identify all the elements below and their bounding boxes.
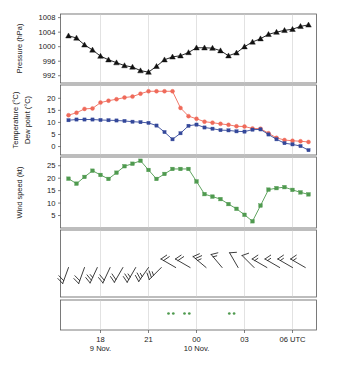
yaxis-temp: 05101520 [47, 94, 60, 151]
frame-wx [61, 300, 317, 330]
dew-point-marker-point [123, 119, 126, 122]
temperature-marker-point [67, 113, 71, 117]
windspeed-axis-label: Wind speed (kt) [15, 167, 24, 219]
ytick-label-pressure-1000: 1000 [39, 42, 56, 51]
windspeed-marker-point [139, 159, 143, 163]
meteogram-svg: 992996100010041008Pressure (hPa)05101520… [0, 0, 337, 368]
windspeed-marker-point [283, 185, 287, 189]
ytick-label-windspeed-5: 5 [51, 211, 55, 220]
panel-frame-pressure [61, 14, 317, 83]
dew-point-marker-point [147, 121, 150, 124]
wind-barb [123, 268, 135, 283]
drizzle-dot [172, 312, 175, 315]
dew-point-marker-point [179, 132, 182, 135]
ytick-label-windspeed-15: 15 [47, 186, 55, 195]
windspeed-marker-point [179, 167, 183, 171]
dew-point-marker-point [283, 142, 286, 145]
wind-barb [111, 268, 123, 283]
temperature-marker-point [123, 96, 127, 100]
series-dew-point [67, 118, 310, 152]
wind-barb [291, 255, 306, 267]
temperature-axis-label: Temperature (°C) [11, 92, 20, 149]
wind-barb [58, 268, 69, 284]
dew-point-marker-point [187, 124, 190, 127]
temperature-marker-point [107, 99, 111, 103]
frame-barbs [61, 230, 317, 297]
windspeed-marker-point [291, 188, 295, 192]
panel-frame-wx [61, 300, 317, 330]
windspeed-axis-label-text: Wind speed (kt) [15, 167, 24, 219]
windspeed-marker-point [243, 213, 247, 217]
dew-point-marker-point [299, 144, 302, 147]
windspeed-marker-point [91, 169, 95, 173]
ytick-label-windspeed-20: 20 [47, 174, 55, 183]
wind-barb [161, 255, 176, 267]
pressure-marker-point [66, 33, 72, 38]
windspeed-marker-point [275, 186, 279, 190]
dew-point-marker-point [275, 138, 278, 141]
temperature-marker-point [131, 95, 135, 99]
windspeed-marker-point [147, 168, 151, 172]
xtick-label-00: 00 [192, 335, 200, 344]
temperature-marker-point [91, 106, 95, 110]
windspeed-marker-point [163, 172, 167, 176]
windspeed-marker-point [203, 192, 207, 196]
windspeed-marker-point [259, 204, 263, 208]
windspeed-marker-point [235, 207, 239, 211]
ytick-label-temp-5: 5 [51, 130, 55, 139]
xtick-label-21: 21 [144, 335, 152, 344]
windspeed-marker-point [227, 202, 231, 206]
dew-point-marker-point [107, 119, 110, 122]
dew-point-marker-point [99, 118, 102, 121]
pressure-marker-point [258, 36, 264, 41]
pressure-marker-point [186, 50, 192, 55]
ytick-label-temp-10: 10 [47, 118, 55, 127]
wind-barb [193, 254, 206, 268]
wind-barb [278, 255, 293, 267]
dew-point-marker-point [219, 129, 222, 132]
drizzle-dot [228, 312, 231, 315]
windspeed-marker-point [219, 197, 223, 201]
present-weather-symbols [167, 312, 235, 315]
pressure-marker-point [250, 39, 256, 44]
wind-barb [74, 268, 85, 284]
wind-barb [211, 253, 222, 268]
pressure-line [69, 25, 309, 72]
dew-point-marker-point [243, 130, 246, 133]
dew-point-marker-point [251, 128, 254, 131]
dew-point-marker-point [307, 149, 310, 152]
xtick-label-06-UTC: 06 UTC [279, 335, 306, 344]
dew-point-marker-point [235, 130, 238, 133]
temperature-marker-point [75, 111, 79, 115]
pressure-marker-point [90, 47, 96, 52]
temperature-marker-point [187, 114, 191, 118]
frame-pressure [61, 14, 317, 83]
weather-symbol-drizzle [167, 312, 175, 315]
ytick-label-pressure-992: 992 [43, 71, 56, 80]
temperature-marker-point [83, 107, 87, 111]
wind-barb [230, 252, 239, 267]
pressure-marker-point [306, 22, 312, 27]
temperature-marker-point [155, 89, 159, 93]
windspeed-marker-point [75, 182, 79, 186]
xaxis: 1821000306 UTC9 Nov.10 Nov. [90, 330, 306, 353]
dew-point-marker-point [211, 127, 214, 130]
temperature-axis-label-text: Temperature (°C) [11, 92, 20, 149]
windspeed-marker-point [187, 167, 191, 171]
temperature-marker-point [227, 123, 231, 127]
series-windspeed [67, 159, 311, 223]
wind-barb [265, 255, 280, 267]
windspeed-marker-point [107, 177, 111, 181]
wind-barb [242, 253, 254, 267]
temperature-marker-point [235, 124, 239, 128]
temperature-marker-point [219, 122, 223, 126]
ytick-label-pressure-996: 996 [43, 57, 56, 66]
windspeed-marker-point [195, 180, 199, 184]
ytick-label-temp-20: 20 [47, 94, 55, 103]
windspeed-marker-point [155, 177, 159, 181]
windspeed-marker-point [83, 175, 87, 179]
dewpoint-axis-label-text: Dew point (°C) [23, 96, 32, 144]
ytick-label-pressure-1004: 1004 [39, 28, 56, 37]
temperature-marker-point [163, 89, 167, 93]
drizzle-dot [183, 312, 186, 315]
